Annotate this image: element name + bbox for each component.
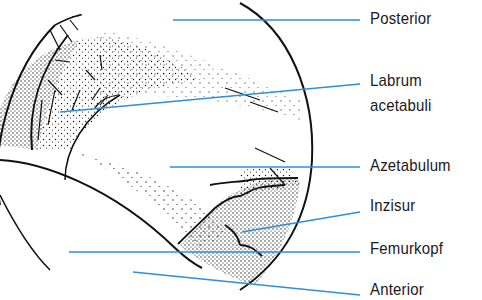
label-anterior: Anterior bbox=[370, 280, 424, 300]
label-acetabuli: acetabuli bbox=[370, 96, 431, 116]
label-femurkopf: Femurkopf bbox=[370, 239, 443, 259]
label-azetabulum: Azetabulum bbox=[370, 156, 451, 176]
label-posterior: Posterior bbox=[370, 9, 431, 29]
acetabulum-upper-shading bbox=[100, 30, 300, 120]
label-labrum: Labrum bbox=[370, 71, 422, 91]
hip-arthroscopy-diagram: Posterior Labrum acetabuli Azetabulum In… bbox=[0, 0, 482, 300]
femoral-head-curve bbox=[0, 195, 50, 270]
label-inzisur: Inzisur bbox=[370, 196, 415, 216]
